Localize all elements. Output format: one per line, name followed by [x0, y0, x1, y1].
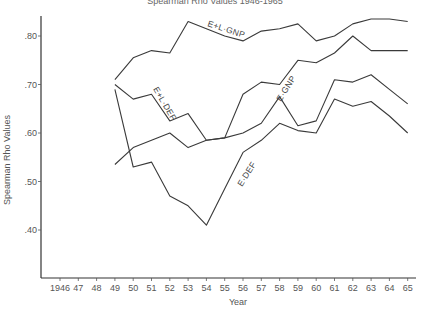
series-label: E·DEF [235, 160, 258, 188]
series-labels: E+L·GNPE+L·DEFE·GNPE·DEF [151, 18, 298, 188]
y-axis-ticks: .40.50.60.70.80 [24, 31, 41, 235]
y-tick-label: .50 [24, 177, 37, 187]
x-tick-label: 52 [165, 283, 175, 293]
x-tick-label: 49 [110, 283, 120, 293]
series-label: E·GNP [274, 74, 298, 103]
y-axis-title: Spearman Rho Values [2, 115, 12, 205]
x-tick-label: 53 [183, 283, 193, 293]
x-tick-label: 65 [403, 283, 413, 293]
x-tick-label: 50 [128, 283, 138, 293]
series-lines [115, 19, 408, 225]
y-tick-label: .40 [24, 225, 37, 235]
series-label: E+L·DEF [151, 85, 178, 122]
x-tick-label: 54 [201, 283, 211, 293]
x-tick-label: 51 [146, 283, 156, 293]
chart-title: Spearman Rho Values 1946-1965 [147, 0, 282, 6]
x-tick-label: 1946 [50, 283, 70, 293]
line-chart: Spearman Rho Values 1946-1965 .40.50.60.… [0, 0, 430, 314]
x-tick-label: 57 [256, 283, 266, 293]
y-tick-label: .70 [24, 80, 37, 90]
chart-container: Spearman Rho Values 1946-1965 .40.50.60.… [0, 0, 430, 314]
y-tick-label: .80 [24, 31, 37, 41]
x-tick-label: 48 [92, 283, 102, 293]
x-axis-title: Year [229, 297, 247, 307]
axes [41, 16, 416, 278]
x-tick-label: 47 [73, 283, 83, 293]
x-tick-label: 62 [348, 283, 358, 293]
series-e-l-gnp [115, 19, 408, 80]
x-tick-label: 58 [275, 283, 285, 293]
x-tick-label: 55 [220, 283, 230, 293]
y-tick-label: .60 [24, 128, 37, 138]
series-e-def [115, 89, 408, 225]
x-tick-label: 61 [329, 283, 339, 293]
x-tick-label: 59 [293, 283, 303, 293]
x-axis-ticks: 1946474849505152535455565758596061626364… [50, 278, 413, 293]
x-tick-label: 63 [366, 283, 376, 293]
x-tick-label: 60 [311, 283, 321, 293]
x-tick-label: 64 [384, 283, 394, 293]
title-text: Spearman Rho Values 1946-1965 [147, 0, 282, 6]
x-tick-label: 56 [238, 283, 248, 293]
